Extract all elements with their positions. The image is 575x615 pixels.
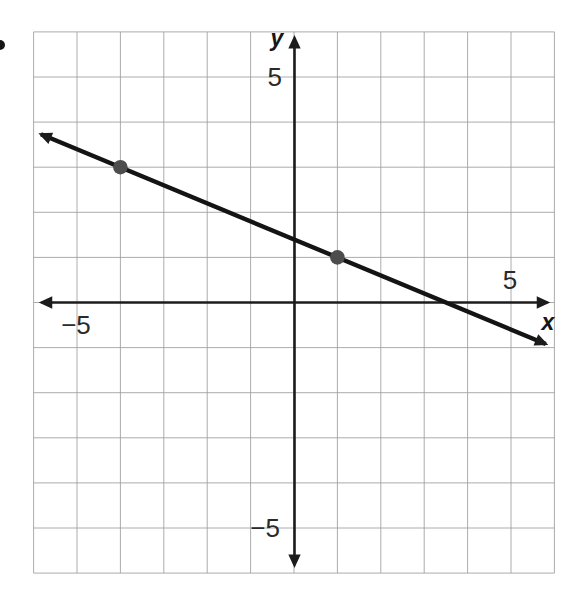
y-axis-tick-neg5: −5 — [250, 513, 280, 543]
axis-labels: y x 5 −5 5 −5 — [61, 25, 555, 543]
y-axis-label: y — [270, 25, 285, 51]
plotted-point — [113, 160, 128, 175]
coordinate-plane: y x 5 −5 5 −5 — [0, 0, 575, 615]
y-axis-tick-5: 5 — [268, 62, 282, 92]
x-axis-label: x — [540, 309, 556, 335]
worksheet-page: y x 5 −5 5 −5 — [0, 0, 575, 615]
plotted-point — [330, 250, 345, 265]
x-axis-tick-neg5: −5 — [61, 310, 91, 340]
x-axis-tick-5: 5 — [503, 265, 517, 295]
axes — [42, 38, 548, 565]
